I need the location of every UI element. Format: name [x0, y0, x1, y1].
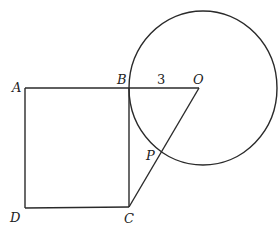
label-d: D: [9, 210, 21, 225]
label-p: P: [145, 148, 155, 163]
segment-oc: [129, 88, 199, 207]
geometry-diagram: A B C D O P 3: [0, 0, 278, 229]
label-o: O: [193, 72, 204, 87]
label-b: B: [116, 72, 127, 87]
label-c: C: [124, 211, 134, 226]
label-a: A: [11, 80, 21, 95]
segment-cd: [25, 207, 129, 208]
length-bo-label: 3: [157, 72, 165, 87]
